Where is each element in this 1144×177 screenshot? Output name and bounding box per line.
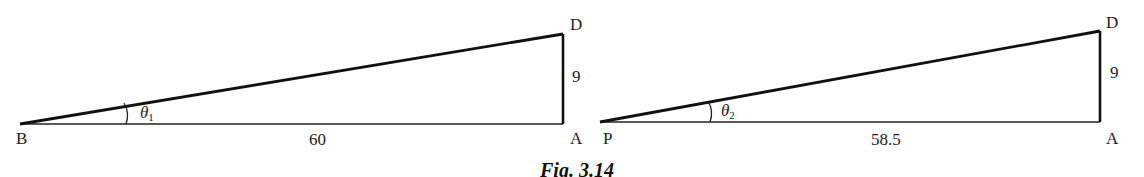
triangle-bad: [20, 34, 563, 124]
theta-subscript: 2: [729, 109, 735, 121]
vertex-label-b: B: [16, 130, 27, 147]
angle-arc-theta2: [708, 101, 712, 122]
triangle-pad: [600, 31, 1100, 122]
vertex-label-a-right: A: [1106, 130, 1118, 147]
height-label-left: 9: [572, 68, 581, 85]
theta-subscript: 1: [148, 111, 154, 123]
base-label-right: 58.5: [871, 131, 901, 148]
figure-caption: Fig. 3.14: [540, 160, 614, 177]
vertex-label-d-left: D: [570, 16, 582, 33]
angle-label-theta2: θ2: [721, 102, 735, 121]
vertex-label-a-left: A: [570, 130, 582, 147]
hypotenuse-pd: [600, 31, 1100, 122]
vertex-label-p: P: [603, 130, 612, 147]
vertex-label-d-right: D: [1106, 14, 1118, 31]
base-label-left: 60: [309, 131, 326, 148]
angle-label-theta1: θ1: [140, 104, 154, 123]
hypotenuse-bd: [20, 34, 563, 124]
height-label-right: 9: [1110, 64, 1119, 81]
